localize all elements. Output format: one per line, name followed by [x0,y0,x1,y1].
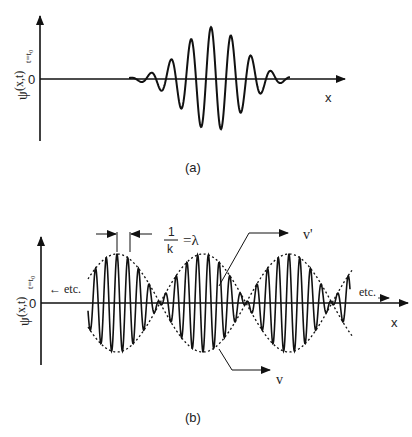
zero-label-a: 0 [28,72,35,87]
group-velocity-pointer [219,349,270,370]
wavelength-denominator: k [167,242,174,256]
phase-velocity-label: v' [303,227,313,242]
caption-b: (b) [185,410,201,425]
zero-label-b: 0 [29,296,36,311]
svg-text:(x,t): (x,t) [12,71,26,91]
svg-text:t=t₀: t=t₀ [23,50,33,63]
wave-diagram: 0 x ψ (x,t) t=t₀ (a) 0 x ψ (x,t) t=t₀ ← … [0,0,412,437]
svg-text:t=t₀: t=t₀ [25,276,35,289]
panel-a [40,16,345,141]
panel-b [41,232,408,370]
caption-a: (a) [185,160,201,175]
wave-packet-curve [130,27,290,129]
svg-text:ψ: ψ [17,317,32,326]
etc-right-label: etc. [359,285,376,299]
svg-text:ψ: ψ [15,91,30,100]
wavelength-equals-lambda: =λ [183,232,199,248]
x-axis-label-a: x [325,90,332,105]
wavelength-numerator: 1 [168,225,175,239]
svg-text:(x,t): (x,t) [14,297,28,317]
group-velocity-label: v [276,372,283,387]
x-axis-label-b: x [391,315,398,330]
etc-left-label: ← etc. [49,282,81,296]
